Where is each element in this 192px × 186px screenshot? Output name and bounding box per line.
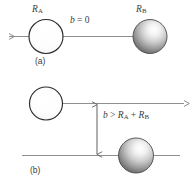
impact-parameter-inequality-label: b > RA + RB [103, 111, 149, 121]
sphere-a-panel-a [29, 20, 63, 54]
sphere-b-panel-b [119, 138, 154, 173]
collision-impact-parameter-figure: RA RB b = 0 b > RA + RB (a) (b) [0, 0, 192, 186]
radius-b-label: RB [136, 5, 147, 15]
sphere-b-panel-a [133, 20, 167, 54]
radius-a-label: RA [32, 5, 43, 15]
panel-b-caption: (b) [30, 166, 40, 175]
figure-canvas [0, 0, 192, 186]
panel-a-caption: (a) [35, 57, 45, 66]
impact-parameter-zero-label: b = 0 [70, 16, 90, 26]
panel-b-group [22, 87, 184, 173]
sphere-a-panel-b [30, 87, 63, 120]
